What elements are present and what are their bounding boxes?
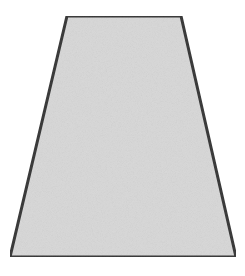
trapezoid-shape (10, 16, 236, 257)
diagram-canvas (0, 0, 245, 276)
